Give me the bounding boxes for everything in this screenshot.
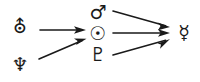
- uranus-symbol: ⛢: [13, 15, 27, 37]
- arrow-uranus-to-sun: [40, 26, 86, 34]
- arrow-shaft: [113, 40, 166, 55]
- arrow-shaft: [39, 41, 82, 59]
- arrow-head: [158, 23, 170, 31]
- pluto-symbol: ♇: [89, 43, 106, 65]
- diagram-canvas: ⛢ ♆ ♂ ☉ ♇ ☿: [0, 0, 200, 82]
- arrow-sun-to-mercury: [113, 29, 170, 37]
- arrow-neptune-to-sun: [39, 39, 87, 59]
- planetary-flow-diagram: ⛢ ♆ ♂ ☉ ♇ ☿: [0, 0, 200, 82]
- mars-symbol: ♂: [89, 1, 106, 23]
- arrow-pluto-to-mercury: [113, 39, 170, 55]
- mercury-symbol: ☿: [178, 21, 190, 43]
- sun-symbol: ☉: [89, 22, 106, 44]
- neptune-symbol: ♆: [11, 53, 28, 75]
- arrow-shaft: [113, 11, 166, 26]
- arrow-mars-to-mercury: [113, 11, 170, 30]
- node-layer: ⛢ ♆ ♂ ☉ ♇ ☿: [11, 1, 189, 75]
